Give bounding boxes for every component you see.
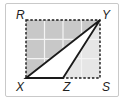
label-point-r: R (16, 9, 25, 21)
label-point-z: Z (63, 81, 70, 93)
label-point-s: S (102, 81, 110, 93)
label-point-x: X (16, 81, 24, 93)
label-point-y: Y (102, 9, 110, 21)
